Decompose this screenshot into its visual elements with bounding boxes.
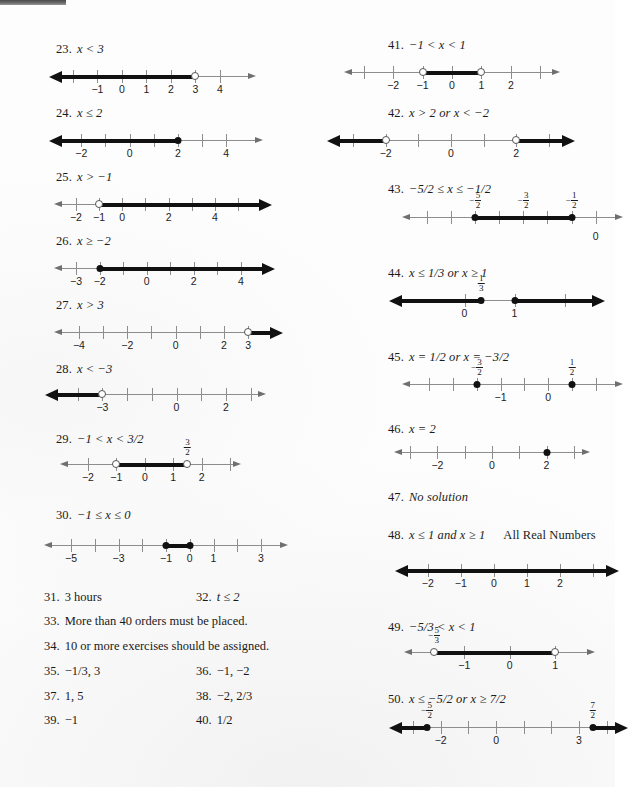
fraction-sign: − bbox=[469, 196, 474, 205]
fraction-numerator: 3 bbox=[476, 358, 483, 367]
axis-arrow-left bbox=[395, 565, 408, 577]
axis-tick-label: −2 bbox=[431, 459, 443, 471]
fraction-label: 72 bbox=[590, 701, 597, 721]
axis-tick-label: 1 bbox=[524, 577, 530, 589]
number-line-24: −2024 bbox=[62, 128, 255, 162]
fraction-body: 12 bbox=[571, 191, 578, 211]
axis-arrow-left bbox=[402, 214, 410, 220]
answer-text-left: More than 40 orders must be placed. bbox=[65, 614, 248, 628]
answer-number-right: 38. bbox=[196, 689, 212, 703]
problem-number: 46. bbox=[388, 422, 404, 436]
answer-text-left: −1/3, 3 bbox=[65, 664, 101, 678]
axis-tick-label: −1 bbox=[458, 659, 470, 671]
axis-tick bbox=[142, 539, 143, 552]
axis-tick-label: −2 bbox=[82, 471, 94, 483]
axis-tick bbox=[596, 378, 597, 391]
axis-tick-label: 4 bbox=[212, 211, 218, 223]
problem-number: 42. bbox=[388, 106, 404, 120]
axis-tick-label: −2 bbox=[435, 734, 447, 746]
fraction-numerator: 3 bbox=[523, 191, 530, 200]
axis-tick-label: −3 bbox=[70, 275, 82, 287]
axis-arrow-right bbox=[258, 391, 266, 397]
axis-tick bbox=[579, 721, 580, 734]
fraction-numerator: 7 bbox=[590, 701, 597, 710]
axis-tick bbox=[427, 211, 428, 224]
axis-tick bbox=[261, 539, 262, 552]
open-endpoint-circle bbox=[382, 136, 390, 144]
fraction-label: −12 bbox=[566, 191, 578, 211]
axis-tick bbox=[453, 378, 454, 391]
answer-number-right: 36. bbox=[196, 664, 212, 678]
solution-segment bbox=[116, 463, 187, 467]
axis-tick bbox=[451, 211, 452, 224]
axis-tick-label: 2 bbox=[221, 339, 227, 351]
open-endpoint-circle bbox=[244, 328, 252, 336]
problem-expression: x = 1/2 or x = −3/2 bbox=[409, 350, 509, 364]
fraction-sign: − bbox=[517, 196, 522, 205]
axis-tick-label: 0 bbox=[142, 471, 148, 483]
answer-text-right: 1/2 bbox=[217, 713, 233, 727]
axis-tick bbox=[484, 134, 485, 147]
number-line-48: −2−1012 bbox=[408, 558, 606, 592]
axis-tick-label: 2 bbox=[199, 471, 205, 483]
axis-tick bbox=[95, 539, 96, 552]
axis-tick-label: 0 bbox=[119, 83, 125, 95]
problem-number: 30. bbox=[56, 508, 72, 522]
axis-arrow-right bbox=[592, 295, 605, 307]
fraction-label: −32 bbox=[517, 191, 529, 211]
answer-row-right: 40.1/2 bbox=[196, 713, 233, 728]
axis-arrow-right bbox=[280, 542, 288, 548]
problem-statement-29: 29.−1 < x < 3/2 bbox=[56, 432, 144, 447]
fraction-sign: − bbox=[566, 196, 571, 205]
axis-tick-label: −3 bbox=[113, 552, 125, 564]
axis-tick-label: 2 bbox=[508, 79, 514, 91]
axis-arrow-left bbox=[45, 389, 58, 401]
closed-endpoint-dot bbox=[568, 214, 575, 221]
closed-endpoint-dot bbox=[543, 449, 550, 456]
problem-statement-30: 30.−1 ≤ x ≤ 0 bbox=[56, 508, 131, 523]
axis-arrow-right bbox=[270, 327, 283, 339]
axis-arrow-right bbox=[552, 69, 560, 75]
problem-number: 29. bbox=[56, 432, 72, 446]
solution-segment bbox=[408, 569, 606, 573]
fraction-denominator: 2 bbox=[426, 710, 433, 720]
answer-row-right: 32.t ≤ 2 bbox=[196, 590, 239, 605]
fraction: −32 bbox=[471, 362, 483, 372]
problem-number: 44. bbox=[388, 266, 404, 280]
page-edge-marker bbox=[0, 0, 66, 5]
problem-number: 25. bbox=[56, 170, 72, 184]
number-line-44: 0113 bbox=[402, 288, 592, 322]
solution-segment bbox=[340, 139, 386, 143]
answer-row: 31.3 hours bbox=[44, 590, 324, 605]
axis-tick bbox=[214, 539, 215, 552]
axis-tick bbox=[103, 326, 104, 339]
number-line-45: −10−3212 bbox=[410, 372, 615, 406]
axis-tick-label: 4 bbox=[238, 275, 244, 287]
solution-segment bbox=[515, 299, 593, 303]
answer-row: 34.10 or more exercises should be assign… bbox=[44, 639, 324, 654]
fraction-sign: − bbox=[471, 363, 476, 372]
fraction: −52 bbox=[469, 195, 481, 205]
open-endpoint-circle bbox=[98, 390, 106, 398]
axis-tick bbox=[201, 388, 202, 401]
axis-tick bbox=[519, 446, 520, 459]
axis-tick-label: 0 bbox=[491, 577, 497, 589]
axis-tick-label: 2 bbox=[513, 147, 519, 159]
problem-number: 50. bbox=[388, 692, 404, 706]
axis-tick bbox=[551, 721, 552, 734]
number-line-axis bbox=[402, 727, 615, 728]
problem-number: 26. bbox=[56, 234, 72, 248]
axis-tick bbox=[437, 446, 438, 459]
fraction: 13 bbox=[478, 278, 485, 288]
axis-tick-label: −5 bbox=[65, 552, 77, 564]
answer-text-right: −1, −2 bbox=[217, 664, 250, 678]
axis-tick-label: 1 bbox=[478, 79, 484, 91]
axis-tick bbox=[76, 262, 77, 275]
axis-tick bbox=[501, 378, 502, 391]
axis-arrow-left bbox=[49, 71, 62, 83]
answer-number-left: 34. bbox=[44, 639, 60, 653]
problem-statement-27: 27.x > 3 bbox=[56, 298, 104, 313]
axis-tick-label: 3 bbox=[245, 339, 251, 351]
axis-tick bbox=[364, 66, 365, 79]
